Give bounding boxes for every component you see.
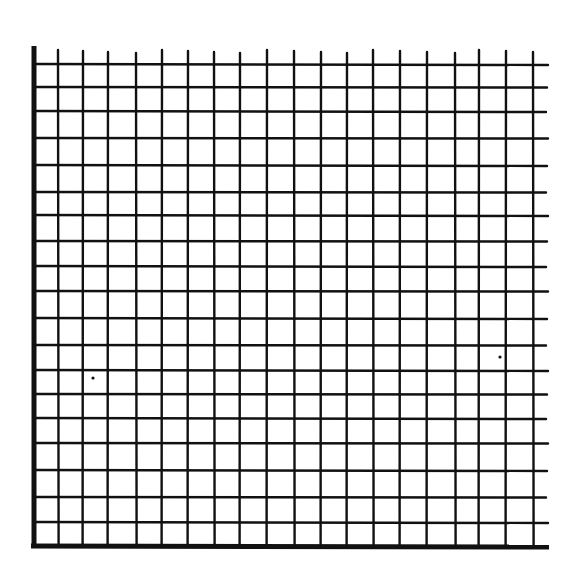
horizontal-grid-line <box>34 470 547 471</box>
horizontal-grid-line <box>34 522 548 523</box>
horizontal-grid-line <box>34 241 547 242</box>
horizontal-grid-line <box>34 394 547 395</box>
horizontal-grid-line <box>34 318 547 319</box>
vertical-grid-line <box>136 53 137 546</box>
horizontal-grid-line <box>34 111 546 112</box>
horizontal-grid-line <box>34 497 546 498</box>
horizontal-grid-line <box>34 192 546 193</box>
grid-paper <box>0 0 577 584</box>
horizontal-grid-line <box>34 418 546 419</box>
horizontal-grid-line <box>34 266 546 267</box>
horizontal-grid-line <box>34 345 546 346</box>
ink-speck <box>91 376 94 379</box>
horizontal-grid-line <box>34 87 547 88</box>
horizontal-grid-line <box>34 165 547 166</box>
horizontal-grid-line <box>34 64 548 65</box>
vertical-grid-line <box>294 51 295 546</box>
horizontal-grid-line <box>34 443 548 444</box>
bottom-axis <box>31 546 549 547</box>
vertical-grid-line <box>455 53 456 546</box>
horizontal-grid-line <box>34 291 548 292</box>
horizontal-grid-line <box>34 370 548 371</box>
vertical-grid-line <box>58 50 59 546</box>
horizontal-grid-line <box>34 138 548 139</box>
vertical-grid-line <box>214 52 215 546</box>
ink-speck <box>498 355 501 358</box>
horizontal-grid-line <box>34 215 548 216</box>
